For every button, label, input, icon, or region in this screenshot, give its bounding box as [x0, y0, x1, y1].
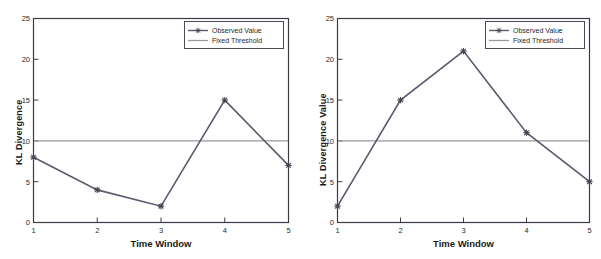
left-plot-frame — [34, 19, 289, 223]
left-y-ticklabel-0: 0 — [26, 218, 30, 227]
left-legend-observed-marker-icon — [195, 28, 201, 34]
right-x-ticklabel-4: 4 — [524, 226, 528, 235]
left-x-axis-label: Time Window — [33, 238, 289, 249]
right-x-ticklabel-3: 3 — [461, 226, 465, 235]
left-plot-svg: 0 5 10 15 20 25 1 2 3 4 5 — [0, 0, 300, 259]
left-legend-threshold-label: Fixed Threshold — [212, 37, 262, 44]
right-legend[interactable]: Observed Value Fixed Threshold — [486, 22, 585, 49]
left-y-ticklabel-5: 5 — [26, 178, 30, 187]
two-panel-line-chart-figure: 0 5 10 15 20 25 1 2 3 4 5 — [0, 0, 601, 259]
left-x-ticklabel-5: 5 — [286, 226, 290, 235]
left-x-ticklabel-4: 4 — [223, 226, 227, 235]
left-y-axis-label: KL Divergence — [14, 100, 24, 165]
right-y-ticklabel-25: 25 — [326, 14, 334, 23]
left-x-ticklabel-2: 2 — [95, 226, 99, 235]
right-x-axis-label: Time Window — [337, 238, 590, 249]
right-y-ticklabel-20: 20 — [326, 55, 334, 64]
right-y-ticklabel-0: 0 — [330, 218, 334, 227]
right-plot-svg: 0 5 10 15 20 25 1 2 3 4 5 — [301, 0, 601, 259]
left-legend[interactable]: Observed Value Fixed Threshold — [185, 22, 284, 49]
right-y-axis-label: KL Divergence Value — [318, 93, 328, 186]
left-legend-observed-label: Observed Value — [212, 27, 262, 34]
left-y-ticklabel-20: 20 — [22, 55, 30, 64]
chart-panel-right: 0 5 10 15 20 25 1 2 3 4 5 — [301, 0, 601, 259]
left-legend-box — [185, 22, 284, 49]
right-legend-box — [486, 22, 585, 49]
right-legend-observed-label: Observed Value — [513, 27, 563, 34]
left-y-ticklabel-25: 25 — [22, 14, 30, 23]
right-x-ticklabel-1: 1 — [335, 226, 339, 235]
left-x-ticklabels: 1 2 3 4 5 — [31, 226, 290, 235]
left-x-ticklabel-3: 3 — [159, 226, 163, 235]
left-x-ticklabel-1: 1 — [31, 226, 35, 235]
right-y-ticklabel-5: 5 — [330, 178, 334, 187]
right-legend-observed-marker-icon — [496, 28, 502, 34]
right-x-ticklabels: 1 2 3 4 5 — [335, 226, 591, 235]
chart-panel-left: 0 5 10 15 20 25 1 2 3 4 5 — [0, 0, 300, 259]
right-legend-threshold-label: Fixed Threshold — [513, 37, 563, 44]
right-x-ticklabel-5: 5 — [587, 226, 591, 235]
right-x-ticklabel-2: 2 — [398, 226, 402, 235]
